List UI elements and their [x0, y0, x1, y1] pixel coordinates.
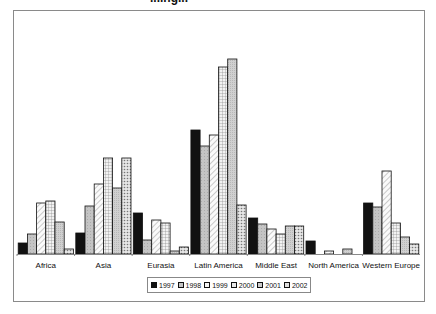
- legend-label: 1999: [212, 282, 228, 289]
- bar-asia-1998: [85, 206, 94, 254]
- legend-item-1997: 1997: [151, 282, 175, 289]
- legend-label: 1997: [159, 282, 175, 289]
- bar-eurasia-1999: [152, 220, 161, 254]
- bar-asia-1999: [94, 184, 103, 254]
- bar-western-europe-2000: [391, 223, 400, 254]
- bar-africa-2001: [55, 222, 64, 254]
- bar-latin-america-1998: [200, 146, 209, 254]
- legend-label: 2001: [265, 282, 281, 289]
- bar-middle-east-2002: [295, 226, 304, 254]
- legend-item-1999: 1999: [204, 282, 228, 289]
- bar-africa-2002: [64, 249, 73, 254]
- bar-asia-2000: [103, 158, 112, 254]
- category-label: North America: [308, 261, 359, 270]
- bar-north-america-1999: [324, 251, 333, 254]
- bar-western-europe-1997: [364, 203, 373, 254]
- bar-eurasia-1997: [133, 213, 142, 254]
- legend-swatch-icon: [178, 282, 184, 288]
- bar-latin-america-2002: [237, 205, 246, 254]
- bar-eurasia-2000: [161, 223, 170, 254]
- legend-swatch-icon: [231, 282, 237, 288]
- category-labels: AfricaAsiaEurasiaLatin AmericaMiddle Eas…: [17, 254, 421, 270]
- legend-label: 1998: [186, 282, 202, 289]
- bar-asia-1997: [76, 233, 85, 254]
- bar-latin-america-2001: [228, 59, 237, 254]
- category-label: Middle East: [255, 261, 298, 270]
- category-label: Africa: [36, 261, 57, 270]
- bar-north-america-1997: [306, 241, 315, 254]
- legend-item-1998: 1998: [178, 282, 202, 289]
- bar-latin-america-1997: [191, 130, 200, 254]
- bar-latin-america-1999: [209, 135, 218, 254]
- legend-label: 2000: [239, 282, 255, 289]
- bar-africa-1997: [18, 243, 27, 254]
- bar-asia-2002: [122, 158, 131, 254]
- bar-eurasia-1998: [143, 240, 152, 254]
- legend-item-2001: 2001: [257, 282, 281, 289]
- legend-swatch-icon: [257, 282, 263, 288]
- category-label: Western Europe: [362, 261, 420, 270]
- bar-middle-east-2001: [285, 226, 294, 254]
- bar-eurasia-2002: [179, 247, 188, 254]
- chart-legend: 199719981999200020012002: [147, 277, 311, 293]
- bar-western-europe-2001: [400, 237, 409, 254]
- bar-middle-east-2000: [276, 234, 285, 254]
- category-label: Latin America: [194, 261, 243, 270]
- bar-asia-2001: [113, 188, 122, 254]
- legend-item-2000: 2000: [231, 282, 255, 289]
- legend-item-2002: 2002: [284, 282, 308, 289]
- bar-africa-2000: [46, 201, 55, 254]
- bar-western-europe-2002: [410, 244, 419, 254]
- bar-latin-america-2000: [219, 67, 228, 254]
- bar-africa-1998: [27, 234, 36, 254]
- bar-north-america-2001: [343, 249, 352, 254]
- bar-middle-east-1998: [258, 224, 267, 254]
- bar-eurasia-2001: [170, 251, 179, 254]
- bar-africa-1999: [37, 203, 46, 254]
- bar-middle-east-1997: [249, 218, 258, 254]
- legend-swatch-icon: [151, 282, 157, 288]
- legend-label: 2002: [292, 282, 308, 289]
- category-label: Eurasia: [147, 261, 175, 270]
- bars-group: [18, 59, 419, 254]
- bar-western-europe-1999: [382, 171, 391, 254]
- bar-western-europe-1998: [373, 207, 382, 254]
- bar-middle-east-1999: [267, 229, 276, 254]
- legend-swatch-icon: [284, 282, 290, 288]
- legend-swatch-icon: [204, 282, 210, 288]
- bar-chart-plot: AfricaAsiaEurasiaLatin AmericaMiddle Eas…: [0, 0, 436, 314]
- category-label: Asia: [96, 261, 112, 270]
